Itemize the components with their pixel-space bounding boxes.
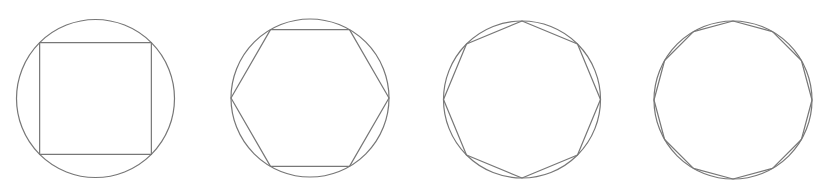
inscribed-polygons-diagram [0,0,826,182]
dodecagon-in-circle-figure [654,21,812,179]
inscribed-dodecagon [654,21,812,179]
circumscribed-circle [654,21,812,179]
circumscribed-circle [444,21,601,178]
inscribed-hexagon [231,30,389,167]
hexagon-in-circle-figure [231,19,389,177]
circumscribed-circle [231,19,389,177]
inscribed-square [40,43,152,155]
square-in-circle-figure [17,20,175,178]
inscribed-octagon [444,21,601,178]
octagon-in-circle-figure [444,21,601,178]
